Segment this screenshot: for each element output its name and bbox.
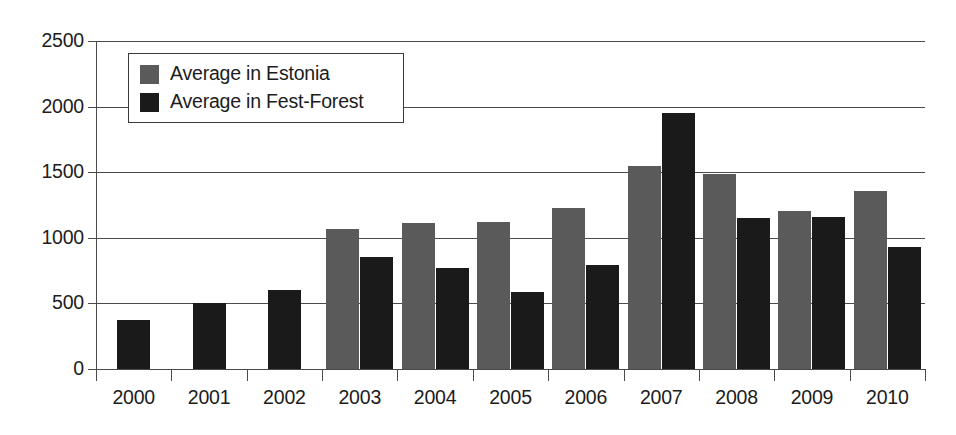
x-tick-mark (397, 369, 398, 381)
bar-2008-estonia (703, 174, 736, 369)
bar-2003-fest-forest (360, 257, 393, 369)
bar-2004-fest-forest (436, 268, 469, 369)
x-tick-mark (850, 369, 851, 381)
x-tick-mark (624, 369, 625, 381)
bar-2009-fest-forest (812, 217, 845, 369)
y-axis: 05001000150020002500 (0, 0, 84, 435)
gridline (96, 41, 925, 42)
y-tick-label: 0 (8, 359, 84, 379)
x-tick-mark (925, 369, 926, 381)
x-tick-label: 2009 (772, 388, 852, 408)
y-tick-mark (88, 41, 97, 42)
bar-2001-fest-forest (193, 303, 226, 369)
x-tick-mark (322, 369, 323, 381)
x-tick-mark (171, 369, 172, 381)
legend-label-estonia: Average in Estonia (170, 64, 330, 84)
x-tick-label: 2006 (546, 388, 626, 408)
bar-2003-estonia (326, 229, 359, 369)
bar-2008-fest-forest (737, 218, 770, 369)
x-axis-line (96, 369, 925, 370)
y-tick-label: 2000 (8, 97, 84, 117)
bar-2005-fest-forest (511, 292, 544, 369)
y-tick-mark (88, 303, 97, 304)
x-tick-label: 2005 (471, 388, 551, 408)
bar-2010-estonia (854, 191, 887, 369)
y-tick-label: 1500 (8, 162, 84, 182)
y-tick-label: 2500 (8, 31, 84, 51)
bar-2006-estonia (552, 208, 585, 369)
chart-legend: Average in Estonia Average in Fest-Fores… (128, 53, 404, 123)
bar-2009-estonia (778, 211, 811, 369)
x-tick-label: 2010 (847, 388, 927, 408)
x-tick-label: 2000 (94, 388, 174, 408)
bar-2004-estonia (402, 223, 435, 369)
x-tick-mark (247, 369, 248, 381)
bar-2006-fest-forest (586, 265, 619, 369)
y-tick-mark (88, 238, 97, 239)
x-tick-mark (774, 369, 775, 381)
x-tick-label: 2007 (621, 388, 701, 408)
y-tick-label: 500 (8, 293, 84, 313)
bar-2007-estonia (628, 166, 661, 369)
y-tick-mark (88, 107, 97, 108)
bar-2005-estonia (477, 222, 510, 369)
legend-item-estonia: Average in Estonia (140, 60, 403, 88)
legend-swatch-fest-forest-icon (140, 93, 159, 112)
legend-label-fest-forest: Average in Fest-Forest (170, 92, 364, 112)
x-tick-label: 2001 (169, 388, 249, 408)
bar-chart: 05001000150020002500 2000200120022003200… (0, 0, 956, 435)
bar-2002-fest-forest (268, 290, 301, 369)
y-tick-mark (88, 172, 97, 173)
x-tick-label: 2002 (244, 388, 324, 408)
x-tick-mark (473, 369, 474, 381)
x-tick-label: 2003 (320, 388, 400, 408)
x-tick-mark (699, 369, 700, 381)
bar-2010-fest-forest (888, 247, 921, 369)
y-tick-label: 1000 (8, 228, 84, 248)
x-tick-label: 2008 (697, 388, 777, 408)
x-tick-label: 2004 (395, 388, 475, 408)
x-tick-mark (96, 369, 97, 381)
gridline (96, 172, 925, 173)
bar-2000-fest-forest (117, 320, 150, 369)
legend-swatch-estonia-icon (140, 65, 159, 84)
x-tick-mark (548, 369, 549, 381)
legend-item-fest-forest: Average in Fest-Forest (140, 88, 403, 116)
bar-2007-fest-forest (662, 113, 695, 369)
y-tick-mark (88, 369, 97, 370)
